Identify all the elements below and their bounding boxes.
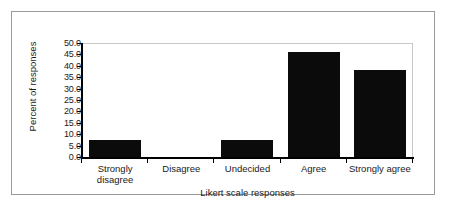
- bar-series: [82, 43, 413, 157]
- bar-agree: [288, 52, 340, 157]
- figure-frame: 50.045.040.035.030.025.020.015.010.05.00…: [11, 11, 435, 195]
- y-tick-label: 35.0: [47, 73, 81, 82]
- bar-strongly-disagree: [89, 140, 141, 157]
- x-tick-label-line: disagree: [82, 174, 148, 185]
- y-tick-label: 20.0: [47, 107, 81, 116]
- y-tick-label: 10.0: [47, 130, 81, 139]
- y-tick-label: 0.0: [47, 153, 81, 162]
- bar-slot: [148, 43, 214, 157]
- plot-area: [82, 43, 413, 157]
- y-tick-label: 15.0: [47, 119, 81, 128]
- bar-slot: [82, 43, 148, 157]
- x-tick-label-line: Disagree: [148, 163, 214, 174]
- x-tick-label: Agree: [281, 163, 347, 174]
- y-tick-label: 40.0: [47, 62, 81, 71]
- x-tick-label-line: Undecided: [214, 163, 280, 174]
- bar-chart-figure: 50.045.040.035.030.025.020.015.010.05.00…: [0, 0, 449, 208]
- x-axis-tick-labels: StronglydisagreeDisagreeUndecidedAgreeSt…: [82, 163, 413, 189]
- x-tick-label: Undecided: [214, 163, 280, 174]
- y-axis-tick-labels: 50.045.040.035.030.025.020.015.010.05.00…: [43, 43, 81, 158]
- x-tick-label-line: Strongly agree: [347, 163, 413, 174]
- x-tick-label: Disagree: [148, 163, 214, 174]
- y-tick-label: 5.0: [47, 142, 81, 151]
- x-tick-label: Strongly agree: [347, 163, 413, 174]
- x-tick-label-line: Agree: [281, 163, 347, 174]
- bar-slot: [281, 43, 347, 157]
- bar-slot: [347, 43, 413, 157]
- x-axis-title: Likert scale responses: [82, 187, 413, 198]
- y-tick-label: 45.0: [47, 50, 81, 59]
- y-tick-label: 50.0: [47, 39, 81, 48]
- y-tick-label: 25.0: [47, 96, 81, 105]
- x-tick-label-line: Strongly: [82, 163, 148, 174]
- y-axis-line: [81, 43, 83, 158]
- bar-slot: [214, 43, 280, 157]
- bar-strongly-agree: [354, 70, 406, 157]
- y-axis-title: Percent of responses: [27, 30, 38, 144]
- bar-undecided: [221, 140, 273, 157]
- x-tick-label: Stronglydisagree: [82, 163, 148, 185]
- y-tick-label: 30.0: [47, 85, 81, 94]
